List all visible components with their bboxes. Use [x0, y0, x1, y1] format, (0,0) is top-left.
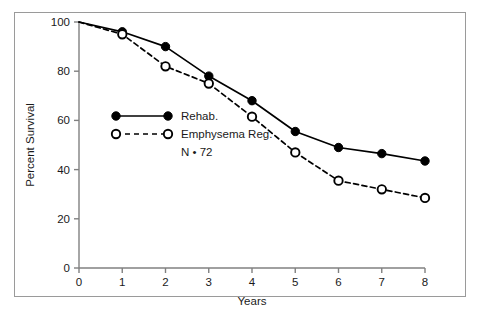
y-axis-title: Percent Survival: [24, 103, 36, 187]
figure: 020406080100012345678YearsPercent Surviv…: [0, 0, 481, 311]
data-point-1-2: [161, 62, 169, 70]
x-tick-label-6: 6: [335, 276, 341, 288]
series-line-1: [79, 22, 425, 198]
x-tick-label-1: 1: [119, 276, 125, 288]
legend-marker-1-0: [112, 130, 120, 138]
x-tick-label-8: 8: [422, 276, 428, 288]
data-point-1-7: [378, 185, 386, 193]
data-point-1-4: [248, 113, 256, 121]
data-point-0-6: [334, 143, 342, 151]
x-tick-label-0: 0: [76, 276, 82, 288]
x-tick-label-7: 7: [379, 276, 385, 288]
series-line-0: [79, 22, 425, 161]
data-point-0-5: [291, 127, 299, 135]
legend-note: N • 72: [181, 146, 213, 158]
legend-label-1: Emphysema Reg.: [181, 128, 272, 140]
data-point-1-8: [421, 194, 429, 202]
y-tick-label-20: 20: [57, 213, 70, 225]
legend-marker-0-0: [112, 112, 120, 120]
data-point-0-2: [161, 42, 169, 50]
data-point-1-5: [291, 148, 299, 156]
y-tick-label-100: 100: [51, 16, 70, 28]
data-point-0-8: [421, 157, 429, 165]
y-tick-label-60: 60: [57, 114, 70, 126]
x-tick-label-3: 3: [206, 276, 212, 288]
y-tick-label-80: 80: [57, 65, 70, 77]
survival-line-chart: 020406080100012345678YearsPercent Surviv…: [0, 0, 481, 311]
x-tick-label-4: 4: [249, 276, 256, 288]
data-point-0-4: [248, 97, 256, 105]
y-tick-label-40: 40: [57, 164, 70, 176]
legend-marker-0-1: [164, 112, 172, 120]
x-tick-label-5: 5: [292, 276, 298, 288]
legend-label-0: Rehab.: [181, 110, 218, 122]
legend-marker-1-1: [164, 130, 172, 138]
x-axis-title: Years: [238, 295, 267, 307]
data-point-1-3: [205, 79, 213, 87]
y-tick-label-0: 0: [64, 262, 70, 274]
data-point-1-6: [334, 177, 342, 185]
x-tick-label-2: 2: [162, 276, 168, 288]
data-point-1-1: [118, 30, 126, 38]
data-point-0-7: [378, 149, 386, 157]
